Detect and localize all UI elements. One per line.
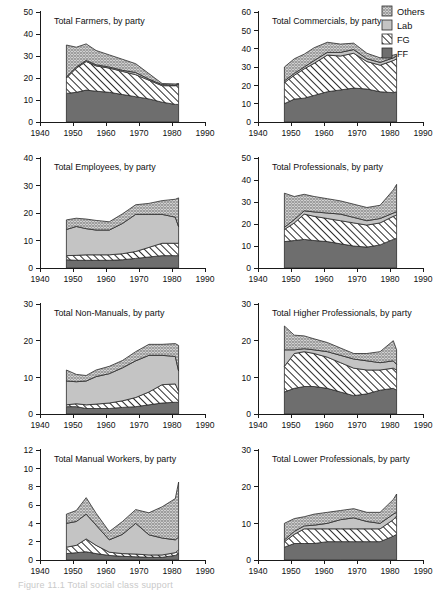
x-tick-label: 1980	[380, 128, 399, 138]
y-tick-label: 40	[23, 29, 33, 39]
y-tick-label: 10	[241, 519, 251, 529]
y-tick-label: 0	[246, 409, 251, 419]
chart-title: Total Manual Workers, by party	[54, 454, 177, 464]
y-tick-label: 50	[241, 26, 251, 36]
x-tick-label: 1960	[96, 566, 115, 576]
legend-label-ff: FF	[397, 49, 409, 59]
y-tick-label: 10	[241, 373, 251, 383]
x-tick-label: 1950	[63, 128, 82, 138]
chart-panel: 194019501960197019801990024681012Total M…	[0, 440, 217, 586]
legend-swatch-ff	[382, 48, 392, 58]
x-tick-label: 1970	[347, 420, 366, 430]
y-tick-label: 30	[241, 62, 251, 72]
x-tick-label: 1940	[30, 274, 49, 284]
legend-swatch-lab	[382, 20, 392, 30]
x-tick-label: 1990	[195, 274, 214, 284]
x-tick-label: 1960	[96, 128, 115, 138]
x-tick-label: 1990	[195, 420, 214, 430]
y-tick-label: 12	[23, 445, 33, 455]
x-tick-label: 1940	[30, 566, 49, 576]
x-tick-label: 1980	[380, 274, 399, 284]
y-tick-label: 30	[241, 445, 251, 455]
y-tick-label: 60	[241, 7, 251, 17]
y-tick-label: 20	[23, 208, 33, 218]
x-tick-label: 1940	[30, 128, 49, 138]
x-tick-label: 1960	[314, 128, 333, 138]
chart-panel: 19401950196019701980199001020304050Total…	[0, 2, 217, 148]
x-tick-label: 1960	[314, 566, 333, 576]
y-tick-label: 10	[241, 241, 251, 251]
x-tick-label: 1950	[281, 566, 300, 576]
y-tick-label: 50	[23, 7, 33, 17]
x-tick-label: 1980	[162, 274, 181, 284]
x-tick-label: 1950	[281, 128, 300, 138]
x-tick-label: 1980	[162, 128, 181, 138]
x-tick-label: 1950	[63, 566, 82, 576]
x-tick-label: 1970	[347, 128, 366, 138]
y-tick-label: 20	[241, 81, 251, 91]
y-tick-label: 30	[23, 299, 33, 309]
y-tick-label: 6	[28, 500, 33, 510]
legend-label-lab: Lab	[397, 21, 412, 31]
chart-title: Total Employees, by party	[54, 162, 156, 172]
y-tick-label: 30	[241, 197, 251, 207]
y-tick-label: 10	[241, 99, 251, 109]
chart-title: Total Lower Professionals, by party	[272, 454, 410, 464]
y-tick-label: 50	[241, 153, 251, 163]
chart-title: Total Higher Professionals, by party	[272, 308, 412, 318]
y-tick-label: 30	[241, 299, 251, 309]
y-tick-label: 10	[23, 95, 33, 105]
x-tick-label: 1940	[248, 274, 267, 284]
chart-panel: 1940195019601970198019900102030Total Low…	[218, 440, 435, 586]
chart-title: Total Commercials, by party	[272, 16, 382, 26]
chart-panel: 1940195019601970198019900102030Total Non…	[0, 294, 217, 440]
x-tick-label: 1940	[248, 420, 267, 430]
x-tick-label: 1970	[129, 566, 148, 576]
x-tick-label: 1970	[347, 566, 366, 576]
chart-panel: 1940195019601970198019900102030Total Hig…	[218, 294, 435, 440]
x-tick-label: 1990	[413, 274, 432, 284]
y-tick-label: 30	[23, 51, 33, 61]
legend-label-others: Others	[397, 7, 425, 17]
x-tick-label: 1950	[281, 274, 300, 284]
x-tick-label: 1990	[413, 420, 432, 430]
y-tick-label: 0	[246, 555, 251, 565]
x-tick-label: 1960	[96, 420, 115, 430]
y-tick-label: 20	[241, 482, 251, 492]
y-tick-label: 0	[28, 263, 33, 273]
x-tick-label: 1960	[96, 274, 115, 284]
y-tick-label: 0	[246, 263, 251, 273]
y-tick-label: 10	[23, 373, 33, 383]
figure-panel-grid: 19401950196019701980199001020304050Total…	[0, 0, 435, 591]
y-tick-label: 10	[23, 236, 33, 246]
x-tick-label: 1960	[314, 420, 333, 430]
y-tick-label: 30	[23, 181, 33, 191]
y-tick-label: 0	[28, 117, 33, 127]
y-tick-label: 20	[23, 336, 33, 346]
x-tick-label: 1990	[413, 128, 432, 138]
x-tick-label: 1970	[129, 274, 148, 284]
y-tick-label: 40	[241, 175, 251, 185]
x-tick-label: 1990	[195, 566, 214, 576]
x-tick-label: 1980	[380, 420, 399, 430]
y-tick-label: 20	[241, 336, 251, 346]
x-tick-label: 1950	[63, 274, 82, 284]
x-tick-label: 1950	[63, 420, 82, 430]
y-tick-label: 40	[241, 44, 251, 54]
y-tick-label: 4	[28, 519, 33, 529]
chart-title: Total Professionals, by party	[272, 162, 384, 172]
y-tick-label: 20	[23, 73, 33, 83]
chart-title: Total Farmers, by party	[54, 16, 145, 26]
y-tick-label: 2	[28, 537, 33, 547]
x-tick-label: 1970	[129, 128, 148, 138]
x-tick-label: 1940	[248, 566, 267, 576]
y-tick-label: 0	[28, 409, 33, 419]
x-tick-label: 1980	[162, 420, 181, 430]
chart-panel: 194019501960197019801990010203040Total E…	[0, 148, 217, 294]
chart-title: Total Non-Manuals, by party	[54, 308, 165, 318]
y-tick-label: 0	[246, 117, 251, 127]
legend-swatch-others	[382, 6, 392, 16]
y-tick-label: 40	[23, 153, 33, 163]
legend-label-fg: FG	[397, 35, 410, 45]
figure-caption: Figure 11.1 Total social class support	[18, 580, 173, 590]
